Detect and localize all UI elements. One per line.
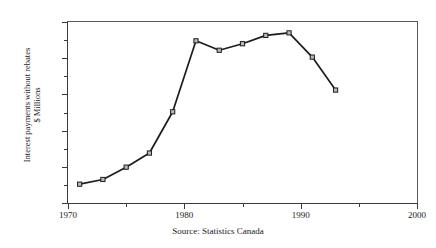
data-point-marker: [194, 39, 198, 43]
series-line-interest-payments: [80, 33, 336, 184]
data-point-marker: [147, 151, 151, 155]
data-point-marker: [78, 182, 82, 186]
data-point-marker: [310, 55, 314, 59]
data-point-marker: [333, 88, 337, 92]
series-markers: [78, 31, 338, 187]
data-point-marker: [217, 48, 221, 52]
data-point-marker: [101, 177, 105, 181]
data-point-marker: [240, 42, 244, 46]
source-caption: Source: Statistics Canada: [0, 226, 436, 237]
data-point-marker: [264, 33, 268, 37]
data-point-marker: [287, 31, 291, 35]
series-layer: [0, 0, 436, 248]
chart-page: Interest payments without rebates $ Mill…: [0, 0, 436, 248]
data-point-marker: [124, 165, 128, 169]
data-point-marker: [171, 110, 175, 114]
